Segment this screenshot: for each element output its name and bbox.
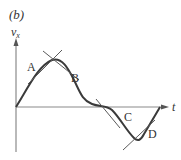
point-label-a: A — [27, 60, 36, 74]
point-label-c: C — [124, 110, 132, 124]
x-axis-arrow-icon — [161, 105, 169, 110]
y-axis-label: vx — [11, 25, 20, 40]
velocity-curve — [16, 60, 160, 141]
point-label-d: D — [148, 127, 157, 141]
point-label-b: B — [71, 71, 79, 85]
panel-label: (b) — [9, 7, 24, 22]
velocity-time-graph: (b) vx t A B C D — [0, 0, 181, 160]
x-axis-label: t — [172, 100, 176, 114]
